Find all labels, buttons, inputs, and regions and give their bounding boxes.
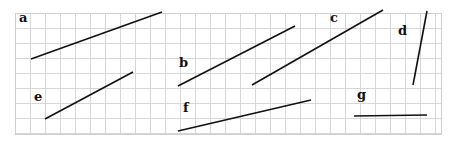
labels-group: abcdefg [19,10,407,115]
segment-label-a: a [19,10,28,25]
segment-g [354,115,427,116]
segment-label-g: g [357,87,366,102]
segment-f [178,100,311,131]
segment-label-e: e [34,89,42,104]
line-segments-diagram: abcdefg [0,0,458,142]
segment-label-c: c [330,10,338,25]
segment-label-f: f [183,100,190,115]
segment-e [45,72,133,119]
segment-label-b: b [179,55,188,70]
segment-label-d: d [398,23,407,38]
segment-a [31,12,162,59]
